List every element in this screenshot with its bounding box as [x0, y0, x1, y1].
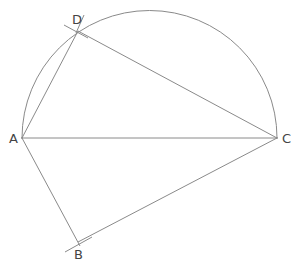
geometry-figure — [0, 0, 294, 263]
segment-AD — [22, 31, 78, 138]
segment-AB — [22, 138, 80, 246]
label-D: D — [72, 13, 82, 26]
label-B: B — [74, 248, 83, 261]
point-C — [276, 137, 278, 139]
segment-DC — [78, 31, 277, 138]
diagram-canvas: D A C B — [0, 0, 294, 263]
point-A — [21, 137, 23, 139]
segment-BC — [78, 138, 277, 242]
label-C: C — [282, 132, 291, 145]
label-A: A — [9, 132, 18, 145]
semicircle-arc — [22, 11, 277, 138]
